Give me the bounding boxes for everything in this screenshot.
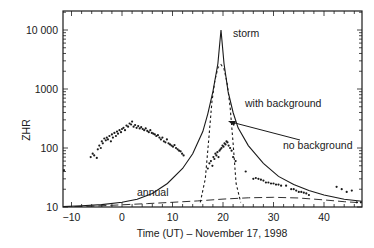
observation-point [208, 162, 210, 164]
observation-point [107, 138, 109, 140]
observation-point [298, 191, 300, 193]
observation-point [98, 145, 100, 147]
observation-point [275, 184, 277, 186]
observation-point [336, 186, 338, 188]
observation-point [105, 139, 107, 141]
observation-point [255, 177, 257, 179]
observation-point [118, 129, 120, 131]
observation-point [356, 201, 358, 203]
x-tick-label: −10 [63, 211, 81, 223]
observation-point [137, 125, 139, 127]
observation-point [216, 151, 218, 153]
y-tick-label: 10 000 [26, 24, 58, 36]
observation-point [252, 178, 254, 180]
observation-point [267, 181, 269, 183]
x-tick-label: 0 [119, 211, 125, 223]
observation-point [215, 154, 217, 156]
x-tick-label: 40 [318, 211, 330, 223]
observation-point [228, 145, 230, 147]
observation-point [265, 181, 267, 183]
observation-point [122, 127, 124, 129]
observation-point [262, 180, 264, 182]
observation-point [285, 185, 287, 187]
observation-point [300, 191, 302, 193]
x-axis-tick-labels: −10010203040 [63, 211, 330, 223]
observation-point [166, 138, 168, 140]
y-tick-label: 10 [46, 201, 58, 213]
x-axis-ticks [72, 11, 355, 207]
y-axis-ticks [63, 12, 362, 207]
observation-point [260, 179, 262, 181]
no-background-arrow [231, 122, 300, 140]
series-with-background [62, 30, 362, 207]
observation-point [148, 131, 150, 133]
annotation-annual: annual [137, 186, 169, 198]
observation-point [280, 185, 282, 187]
observation-point [164, 141, 166, 143]
annotation-storm: storm [233, 27, 260, 39]
observation-point [130, 123, 132, 125]
x-axis-title: Time (UT) – November 17, 1998 [137, 227, 288, 239]
observation-point [210, 160, 212, 162]
observation-point [229, 147, 231, 149]
observation-point [101, 140, 103, 142]
observation-point [117, 133, 119, 135]
observation-point [232, 156, 234, 158]
observation-point [183, 154, 185, 156]
observation-point [140, 126, 142, 128]
plot-series [62, 30, 362, 207]
observation-point [220, 147, 222, 149]
observation-point [108, 135, 110, 137]
observation-point [222, 146, 224, 148]
x-tick-label: 30 [268, 211, 280, 223]
observation-point [154, 133, 156, 135]
observation-point [293, 188, 295, 190]
observation-point [270, 182, 272, 184]
observation-point [158, 137, 160, 139]
observation-point [160, 138, 162, 140]
observation-point [212, 156, 214, 158]
observation-point [295, 190, 297, 192]
observation-point [226, 141, 228, 143]
observation-point [149, 129, 151, 131]
observation-point [308, 194, 310, 196]
observation-point [245, 170, 247, 172]
plot-frame [63, 11, 362, 207]
observation-point [116, 131, 118, 133]
observation-point [90, 156, 92, 158]
observation-point [131, 121, 133, 123]
observation-point [97, 148, 99, 150]
observation-point [172, 146, 174, 148]
observation-point [127, 126, 129, 128]
observation-point [213, 158, 215, 160]
x-tick-label: 10 [167, 211, 179, 223]
observation-point [113, 132, 115, 134]
observation-point [207, 167, 209, 169]
observation-point [351, 190, 353, 192]
observation-point [157, 134, 159, 136]
observation-point [124, 129, 126, 131]
observation-point [217, 156, 219, 158]
observation-point [224, 143, 226, 145]
observation-point [134, 124, 136, 126]
y-tick-label: 100 [40, 142, 58, 154]
observation-point [145, 127, 147, 129]
observation-point [115, 135, 117, 137]
y-axis-tick-labels: 10100100010 000 [26, 24, 58, 213]
observation-point [100, 147, 102, 149]
observation-point [133, 126, 135, 128]
observation-point [92, 153, 94, 155]
y-tick-label: 1000 [35, 83, 59, 95]
observation-point [143, 129, 145, 131]
observation-point [110, 140, 112, 142]
observation-point [290, 188, 292, 190]
observation-point [111, 133, 113, 135]
observation-point [346, 191, 348, 193]
observation-point [96, 157, 98, 159]
observation-point [257, 178, 259, 180]
y-axis-title: ZHR [20, 119, 32, 141]
x-tick-label: 20 [217, 211, 229, 223]
observation-point [272, 182, 274, 184]
observation-point [93, 154, 95, 156]
observation-point [120, 131, 122, 133]
